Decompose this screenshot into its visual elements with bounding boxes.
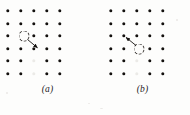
lattice-atom bbox=[32, 34, 35, 37]
scan-speck bbox=[6, 92, 8, 94]
figure-panel-b: (b) bbox=[95, 0, 190, 115]
lattice-atom bbox=[148, 72, 151, 75]
figure-panel-a: (a) bbox=[0, 0, 95, 115]
lattice-atom bbox=[58, 47, 61, 50]
lattice-atom bbox=[122, 9, 125, 12]
lattice-atom bbox=[58, 22, 61, 25]
lattice-atom-moving bbox=[122, 34, 125, 37]
lattice-atom bbox=[148, 47, 151, 50]
lattice-atom bbox=[32, 22, 35, 25]
lattice-atom bbox=[148, 34, 151, 37]
lattice-atom bbox=[135, 34, 138, 37]
lattice-atom bbox=[161, 9, 164, 12]
lattice-atom bbox=[148, 9, 151, 12]
lattice-atom bbox=[148, 59, 151, 62]
lattice-atom bbox=[58, 72, 61, 75]
lattice-grid-a bbox=[0, 0, 95, 84]
lattice-atom bbox=[6, 9, 9, 12]
lattice-atom bbox=[58, 34, 61, 37]
lattice-atom bbox=[122, 47, 125, 50]
lattice-atom bbox=[135, 59, 138, 62]
lattice-grid-b bbox=[95, 0, 190, 84]
lattice-atom bbox=[19, 72, 22, 75]
lattice-atom bbox=[32, 9, 35, 12]
lattice-atom bbox=[161, 47, 164, 50]
lattice-atom bbox=[109, 34, 112, 37]
lattice-atom bbox=[161, 34, 164, 37]
panel-label-a: (a) bbox=[0, 84, 95, 94]
lattice-atom bbox=[45, 34, 48, 37]
scan-speck bbox=[100, 108, 103, 109]
lattice-atom bbox=[19, 47, 22, 50]
lattice-atom bbox=[109, 72, 112, 75]
jump-arrow-a bbox=[0, 0, 95, 84]
lattice-atom bbox=[109, 22, 112, 25]
figure-root: (a) bbox=[0, 0, 190, 115]
lattice-atom bbox=[58, 9, 61, 12]
lattice-atom bbox=[109, 9, 112, 12]
lattice-atom bbox=[45, 22, 48, 25]
lattice-atom bbox=[6, 59, 9, 62]
scan-speck bbox=[176, 19, 178, 21]
panel-label-b: (b) bbox=[95, 84, 190, 94]
lattice-atom bbox=[161, 59, 164, 62]
lattice-atom bbox=[45, 72, 48, 75]
lattice-atom bbox=[122, 72, 125, 75]
lattice-atom bbox=[161, 72, 164, 75]
lattice-atom-moving bbox=[32, 47, 35, 50]
lattice-atom bbox=[122, 22, 125, 25]
lattice-atom bbox=[161, 22, 164, 25]
lattice-atom bbox=[32, 72, 35, 75]
lattice-atom bbox=[109, 59, 112, 62]
lattice-atom bbox=[19, 22, 22, 25]
vacancy-dashed-circle bbox=[19, 31, 30, 42]
lattice-atom bbox=[122, 59, 125, 62]
lattice-atom bbox=[45, 59, 48, 62]
lattice-atom bbox=[45, 47, 48, 50]
lattice-atom bbox=[6, 72, 9, 75]
lattice-atom bbox=[58, 59, 61, 62]
lattice-atom bbox=[19, 59, 22, 62]
lattice-atom bbox=[6, 34, 9, 37]
lattice-atom bbox=[6, 22, 9, 25]
lattice-atom bbox=[148, 22, 151, 25]
lattice-atom bbox=[45, 9, 48, 12]
lattice-atom bbox=[109, 47, 112, 50]
vacancy-dashed-circle bbox=[134, 44, 145, 55]
lattice-atom bbox=[6, 47, 9, 50]
lattice-atom bbox=[135, 72, 138, 75]
lattice-atom bbox=[32, 59, 35, 62]
scan-speck bbox=[88, 103, 90, 104]
lattice-atom bbox=[135, 22, 138, 25]
lattice-atom bbox=[135, 9, 138, 12]
jump-arrow-b bbox=[95, 0, 190, 84]
lattice-atom bbox=[19, 9, 22, 12]
